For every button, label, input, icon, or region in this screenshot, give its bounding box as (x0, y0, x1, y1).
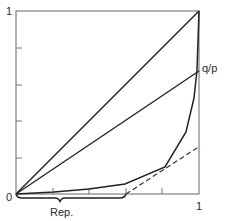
q-over-p-line (16, 71, 199, 194)
y-axis-ticks (16, 48, 22, 158)
y-axis-max-label: 1 (6, 5, 12, 17)
rep-brace (16, 194, 126, 202)
diagonal-line (16, 11, 199, 194)
diagram-figure: 1 0 1 q/p Rep. (0, 0, 226, 221)
q-over-p-label: q/p (202, 62, 217, 74)
rep-label: Rep. (50, 206, 73, 218)
origin-label: 0 (6, 191, 12, 203)
dashed-tangent (126, 146, 200, 194)
x-axis-max-label: 1 (196, 200, 202, 212)
